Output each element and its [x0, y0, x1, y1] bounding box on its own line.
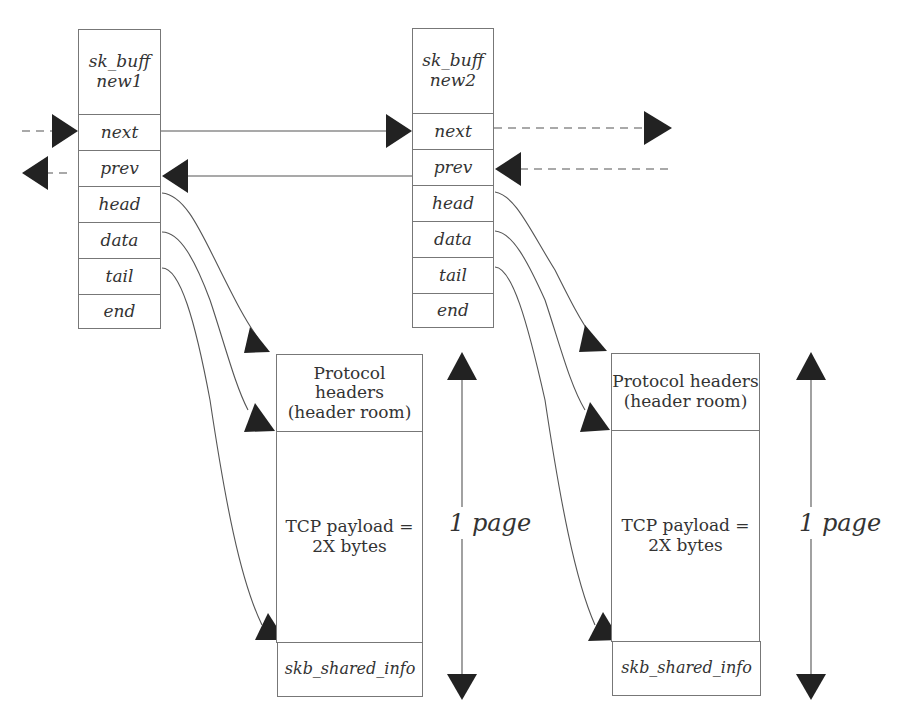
field-next: next [412, 113, 494, 150]
arrowhead-icon [495, 152, 521, 186]
sk-buff-title: sk_buff new2 [412, 28, 494, 114]
curve-new2-tail [495, 267, 595, 625]
field-data: data [78, 222, 161, 259]
arrow-up-icon [796, 352, 826, 380]
arrowhead-icon [162, 159, 188, 193]
field-data: data [412, 221, 494, 258]
arrow-down-icon [796, 674, 826, 700]
arrowhead-icon [579, 325, 607, 352]
tcp-payload: TCP payload = 2X bytes [276, 431, 423, 643]
arrowhead-icon [580, 402, 610, 432]
arrowhead-icon [52, 114, 78, 148]
arrow-up-icon [447, 352, 477, 380]
page-size-label: 1 page [799, 507, 881, 539]
curve-new2-head [495, 192, 593, 338]
arrowhead-icon [22, 156, 48, 190]
field-end: end [78, 294, 161, 329]
sk-buff-title: sk_buff new1 [78, 29, 161, 115]
header-room: Protocol headers (header room) [276, 354, 423, 432]
curve-new1-head [162, 193, 258, 338]
tcp-payload: TCP payload = 2X bytes [611, 430, 760, 642]
page-size-label: 1 page [449, 507, 531, 539]
field-head: head [412, 185, 494, 222]
header-room: Protocol headers (header room) [611, 353, 760, 431]
field-prev: prev [78, 150, 161, 187]
arrowhead-icon [644, 111, 672, 145]
skb-shared-info: skb_shared_info [277, 642, 423, 697]
arrow-down-icon [447, 674, 477, 700]
field-end: end [412, 293, 494, 328]
curve-new1-data [162, 232, 248, 410]
curve-new2-data [495, 231, 585, 410]
field-tail: tail [412, 257, 494, 294]
field-prev: prev [412, 149, 494, 186]
arrowhead-icon [386, 114, 412, 148]
field-head: head [78, 186, 161, 223]
field-tail: tail [78, 258, 161, 295]
skb-shared-info: skb_shared_info [612, 641, 761, 696]
field-next: next [78, 114, 161, 151]
arrowhead-icon [244, 403, 275, 432]
arrowhead-icon [244, 327, 270, 353]
